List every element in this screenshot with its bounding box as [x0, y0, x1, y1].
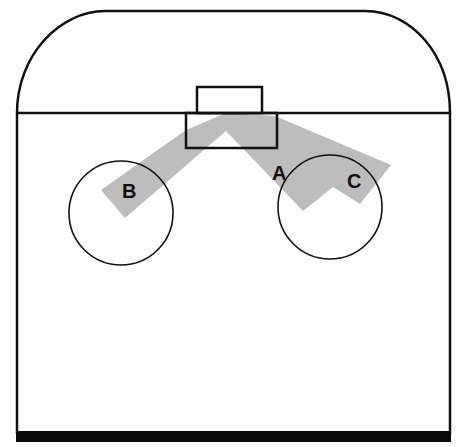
- shaded-zone: [101, 113, 391, 218]
- diagram-canvas: A B C: [0, 0, 469, 447]
- label-c: C: [347, 170, 361, 192]
- small-upper-box: [197, 87, 262, 113]
- label-b: B: [122, 180, 136, 202]
- outer-boundary: [17, 11, 450, 434]
- bottom-bar: [16, 431, 451, 442]
- label-a: A: [272, 162, 286, 184]
